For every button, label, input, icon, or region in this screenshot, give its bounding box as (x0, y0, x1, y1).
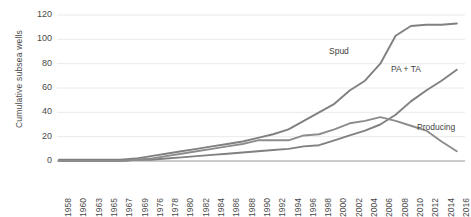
x-tick-text: 2016 (461, 198, 471, 217)
x-tick-text: 2014 (446, 198, 456, 217)
x-tick-label: 1992 (277, 198, 287, 217)
x-tick-text: 1990 (262, 198, 272, 217)
x-tick-label: 1976 (155, 198, 165, 217)
x-tick-label: 1986 (231, 198, 241, 217)
x-tick-label: 1994 (293, 198, 303, 217)
x-axis-tick-labels: 1958196019631965196719691976197819801982… (57, 162, 465, 201)
x-tick-label: 1965 (109, 198, 119, 217)
x-tick-text: 1984 (216, 198, 226, 217)
y-tick-label: 40 (18, 107, 52, 116)
x-tick-text: 1976 (155, 198, 165, 217)
x-tick-text: 2004 (369, 198, 379, 217)
series-lines (59, 24, 457, 161)
y-tick-label: 80 (18, 59, 52, 68)
x-tick-label: 1998 (323, 198, 333, 217)
x-tick-label: 2002 (354, 198, 364, 217)
x-tick-label: 1996 (308, 198, 318, 217)
x-tick-label: 1978 (170, 198, 180, 217)
x-tick-label: 2004 (369, 198, 379, 217)
y-tick-label: 100 (18, 34, 52, 43)
x-tick-text: 1958 (63, 198, 73, 217)
x-tick-label: 1980 (185, 198, 195, 217)
series-label-pa-ta: PA + TA (391, 64, 421, 74)
x-tick-text: 1998 (323, 198, 333, 217)
series-line-producing (59, 117, 457, 161)
x-tick-label: 1963 (94, 198, 104, 217)
x-tick-label: 1967 (124, 198, 134, 217)
x-tick-label: 1990 (262, 198, 272, 217)
x-tick-text: 1967 (124, 198, 134, 217)
x-tick-label: 2000 (338, 198, 348, 217)
series-label-spud: Spud (329, 46, 349, 56)
x-tick-text: 2006 (384, 198, 394, 217)
x-tick-text: 1980 (185, 198, 195, 217)
x-tick-text: 1982 (201, 198, 211, 217)
series-line-spud (59, 24, 457, 160)
x-tick-text: 1963 (94, 198, 104, 217)
x-tick-text: 1965 (109, 198, 119, 217)
x-tick-label: 2006 (384, 198, 394, 217)
x-tick-label: 1958 (63, 198, 73, 217)
x-tick-text: 2002 (354, 198, 364, 217)
x-tick-text: 2008 (400, 198, 410, 217)
x-tick-text: 2000 (338, 198, 348, 217)
x-tick-text: 2010 (415, 198, 425, 217)
x-tick-label: 2008 (400, 198, 410, 217)
x-tick-label: 2012 (430, 198, 440, 217)
x-tick-text: 1992 (277, 198, 287, 217)
y-tick-label: 60 (18, 83, 52, 92)
x-tick-text: 1986 (231, 198, 241, 217)
y-tick-label: 20 (18, 132, 52, 141)
x-tick-label: 2014 (446, 198, 456, 217)
x-tick-text: 1960 (78, 198, 88, 217)
x-tick-label: 1969 (140, 198, 150, 217)
x-tick-text: 1996 (308, 198, 318, 217)
x-tick-label: 1988 (247, 198, 257, 217)
x-tick-text: 1969 (140, 198, 150, 217)
series-label-producing: Producing (417, 122, 455, 132)
x-tick-text: 1994 (293, 198, 303, 217)
x-tick-label: 1984 (216, 198, 226, 217)
gridlines (57, 15, 465, 161)
y-tick-label: 120 (18, 10, 52, 19)
x-tick-label: 1982 (201, 198, 211, 217)
x-tick-label: 1960 (78, 198, 88, 217)
x-tick-text: 2012 (430, 198, 440, 217)
y-tick-label: 0 (18, 156, 52, 165)
x-tick-label: 2016 (461, 198, 471, 217)
y-axis-tick-labels: 120100806040200 (14, 0, 52, 201)
x-tick-label: 2010 (415, 198, 425, 217)
x-tick-text: 1988 (247, 198, 257, 217)
series-line-pa-ta (59, 70, 457, 161)
x-tick-text: 1978 (170, 198, 180, 217)
